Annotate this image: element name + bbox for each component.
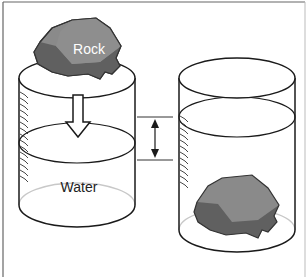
drop-arrow-icon <box>66 95 90 137</box>
diagram-canvas <box>0 0 308 279</box>
arrow-down-icon <box>151 149 159 158</box>
left-cylinder <box>19 58 135 227</box>
rock-after <box>179 175 295 252</box>
right-water-surface <box>179 97 295 137</box>
right-top-rim <box>179 58 295 98</box>
right-graduations <box>180 116 188 188</box>
level-rise-indicator <box>137 117 173 160</box>
water-label: Water <box>61 179 98 195</box>
displacement-diagram: Rock Water <box>0 0 308 279</box>
arrow-up-icon <box>151 119 159 128</box>
rock-label: Rock <box>73 41 105 57</box>
